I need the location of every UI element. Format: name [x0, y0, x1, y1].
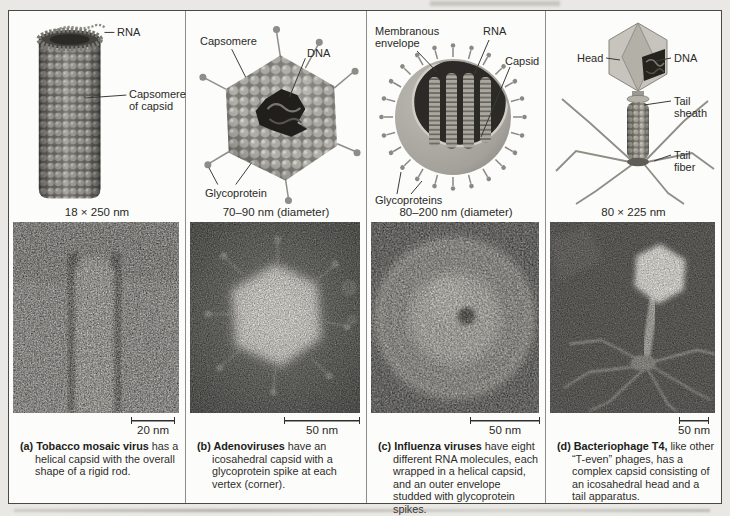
caption-lead: (a) Tobacco mosaic virus — [20, 440, 149, 452]
label-capsomere: Capsomere — [200, 35, 257, 47]
label-capsomere-of-capsid: Capsomere of capsid — [129, 88, 189, 113]
caption-bacteriophage: (d) Bacteriophage T4, like other “T-even… — [546, 438, 721, 503]
label-capsid: Capsid — [505, 55, 539, 67]
label-rna: RNA — [483, 25, 506, 37]
size-label-tmv: 18 × 250 nm — [9, 205, 185, 220]
panel-tobacco-mosaic-virus: RNA Capsomere of capsid 18 × 250 nm — [9, 11, 186, 503]
caption-lead: (b) Adenoviruses — [197, 440, 285, 452]
leader-glycoprotein-1 — [209, 168, 218, 185]
caption-lead: (d) Bacteriophage T4, — [557, 440, 667, 452]
scale-bar-value: 50 nm — [489, 424, 521, 436]
leader-glycoproteins-1 — [397, 172, 401, 194]
caption-influenza: (c) Influenza viruses have eight differe… — [367, 438, 545, 515]
label-tail-sheath: Tail sheath — [674, 95, 714, 120]
page-top-smudge — [430, 1, 560, 6]
leader-glycoprotein-2 — [236, 163, 252, 185]
micrograph-adenovirus — [190, 222, 360, 413]
panel-influenza-viruses: Membranous envelope RNA Capsid Glycoprot… — [367, 11, 546, 503]
label-dna: DNA — [307, 47, 330, 59]
label-dna: DNA — [674, 52, 697, 64]
micrograph-tmv — [13, 222, 179, 413]
page-edge-smudge — [14, 509, 710, 512]
label-tail-fiber: Tail fiber — [674, 149, 710, 174]
leader-glycoproteins-2 — [411, 181, 422, 194]
scale-bar-line — [284, 417, 360, 424]
micrograph-influenza — [371, 222, 539, 413]
caption-tmv: (a) Tobacco mosaic virus has a helical c… — [9, 438, 185, 478]
panel-adenoviruses: Capsomere DNA Glycoprotein 70–90 nm (dia… — [186, 11, 367, 503]
illustration-tmv: RNA Capsomere of capsid — [9, 11, 185, 205]
leader-capsomere — [232, 49, 246, 77]
size-label-bacteriophage: 80 × 225 nm — [546, 205, 721, 220]
bacteriophage-em-image — [550, 222, 715, 413]
size-label-adenovirus: 70–90 nm (diameter) — [186, 205, 366, 220]
size-label-influenza: 80–200 nm (diameter) — [367, 205, 545, 220]
influenza-em-image — [371, 222, 539, 413]
micrograph-bacteriophage — [550, 222, 715, 413]
label-glycoprotein: Glycoprotein — [205, 187, 267, 199]
label-glycoproteins: Glycoproteins — [375, 194, 442, 206]
scale-bar-line — [679, 417, 709, 424]
tmv-em-image — [13, 222, 179, 413]
caption-adenovirus: (b) Adenoviruses have an icosahedral cap… — [186, 438, 366, 490]
collar — [627, 95, 649, 102]
illustration-bacteriophage: Head DNA Tail sheath Tail fiber — [546, 11, 721, 205]
illustration-influenza: Membranous envelope RNA Capsid Glycoprot… — [367, 11, 545, 205]
panel-bacteriophage-t4: Head DNA Tail sheath Tail fiber 80 × 225… — [546, 11, 721, 503]
label-head: Head — [577, 52, 603, 64]
scale-bar-influenza: 50 nm — [367, 413, 545, 438]
scale-bar-bacteriophage: 50 nm — [546, 413, 721, 438]
label-rna: RNA — [117, 26, 140, 38]
scale-bar-value: 20 nm — [137, 424, 169, 436]
leader-tail-sheath — [644, 101, 671, 105]
illustration-adenovirus: Capsomere DNA Glycoprotein — [186, 11, 366, 205]
caption-lead: (c) Influenza viruses — [378, 440, 482, 452]
virus-structure-figure: RNA Capsomere of capsid 18 × 250 nm — [8, 10, 722, 504]
scale-bar-line — [470, 417, 540, 424]
label-membranous-envelope: Membranous envelope — [375, 25, 451, 50]
baseplate — [627, 158, 649, 166]
scale-bar-value: 50 nm — [306, 424, 338, 436]
adenovirus-em-image — [190, 222, 360, 413]
scale-bar-adenovirus: 50 nm — [186, 413, 366, 438]
scale-bar-tmv: 20 nm — [9, 413, 185, 438]
scale-bar-value: 50 nm — [678, 424, 710, 436]
scale-bar-line — [131, 417, 175, 424]
